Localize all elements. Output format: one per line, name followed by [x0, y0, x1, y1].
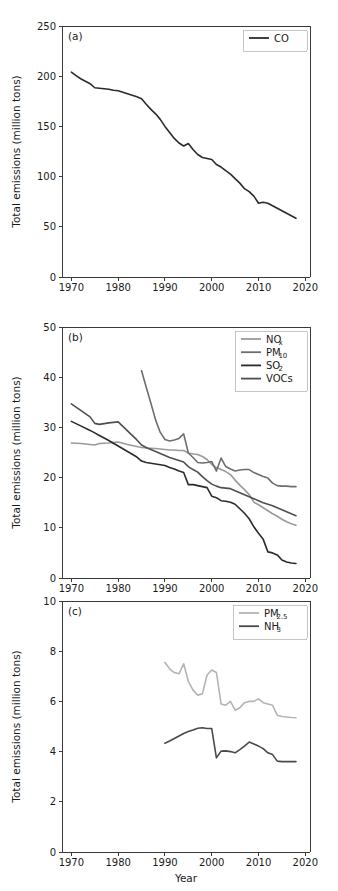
y-axis-ticks: 0246810 — [43, 596, 62, 858]
x-tick-label: 2020 — [293, 857, 318, 868]
y-tick-label: 50 — [43, 322, 56, 333]
series-line-vocs — [71, 404, 296, 516]
series-group — [71, 72, 296, 218]
panel-label: (b) — [68, 331, 83, 343]
x-tick-label: 2000 — [199, 282, 224, 293]
y-tick-label: 250 — [37, 21, 56, 32]
x-tick-label: 1990 — [152, 282, 177, 293]
axes — [62, 26, 310, 277]
legend-label-subscript: 3 — [276, 626, 280, 634]
x-tick-label: 1970 — [59, 857, 84, 868]
legend-label-subscript: x — [278, 339, 282, 347]
series-line-co — [71, 72, 296, 218]
panel-a-co: 050100150200250197019801990200020102020T… — [0, 0, 338, 300]
legend-label-vocs: VOCs — [266, 373, 293, 384]
series-line-pm25 — [165, 663, 296, 718]
y-tick-label: 150 — [37, 121, 56, 132]
y-tick-label: 40 — [43, 372, 56, 383]
panel-label: (a) — [68, 30, 83, 42]
legend: PM2.5NH3 — [233, 605, 307, 639]
x-tick-label: 1990 — [152, 857, 177, 868]
y-tick-label: 2 — [50, 796, 56, 807]
panel-b-plot: 01020304050197019801990200020102020Total… — [0, 296, 338, 596]
legend-label-subscript: 2.5 — [276, 613, 287, 621]
x-tick-label: 1980 — [105, 282, 130, 293]
x-tick-label: 2010 — [246, 857, 271, 868]
axes — [62, 601, 310, 852]
y-axis-ticks: 01020304050 — [43, 322, 62, 584]
y-tick-label: 10 — [43, 596, 56, 607]
x-tick-label: 2000 — [199, 857, 224, 868]
y-tick-label: 20 — [43, 472, 56, 483]
y-tick-label: 0 — [50, 272, 56, 283]
y-tick-label: 8 — [50, 646, 56, 657]
legend: NOxPM10SO2VOCs — [235, 331, 307, 392]
x-axis-ticks: 197019801990200020102020 — [59, 277, 318, 293]
series-group — [71, 371, 296, 564]
x-tick-label: 2020 — [293, 282, 318, 293]
panel-a-plot: 050100150200250197019801990200020102020T… — [0, 0, 338, 300]
y-tick-label: 6 — [50, 696, 56, 707]
legend-label-subscript: 2 — [278, 365, 282, 373]
y-tick-label: 4 — [50, 746, 56, 757]
legend: CO — [243, 30, 307, 51]
y-tick-label: 30 — [43, 422, 56, 433]
y-tick-label: 200 — [37, 71, 56, 82]
y-tick-label: 10 — [43, 522, 56, 533]
legend-label-subscript: 10 — [278, 352, 287, 360]
panel-c-plot: 0246810197019801990200020102020Total emi… — [0, 591, 338, 891]
y-axis-ticks: 050100150200250 — [37, 21, 62, 283]
series-line-nox — [71, 442, 296, 525]
panel-c-pm25-nh3: 0246810197019801990200020102020Total emi… — [0, 591, 338, 891]
series-line-nh3 — [165, 728, 296, 762]
y-axis-title: Total emissions (million tons) — [10, 376, 22, 529]
x-tick-label: 2010 — [246, 282, 271, 293]
x-tick-label: 1980 — [105, 857, 130, 868]
x-axis-ticks: 197019801990200020102020 — [59, 852, 318, 868]
panel-label: (c) — [68, 605, 82, 617]
x-axis-title: Year — [174, 872, 198, 884]
y-tick-label: 100 — [37, 171, 56, 182]
y-axis-title: Total emissions (million tons) — [10, 75, 22, 228]
y-tick-label: 0 — [50, 847, 56, 858]
y-tick-label: 50 — [43, 221, 56, 232]
x-tick-label: 1970 — [59, 282, 84, 293]
series-group — [165, 663, 296, 762]
y-axis-title: Total emissions (million tons) — [10, 650, 22, 803]
y-tick-label: 0 — [50, 573, 56, 584]
emissions-figure: 050100150200250197019801990200020102020T… — [0, 0, 338, 891]
legend-label-co: CO — [274, 33, 289, 44]
panel-b-criteria-pollutants: 01020304050197019801990200020102020Total… — [0, 296, 338, 596]
